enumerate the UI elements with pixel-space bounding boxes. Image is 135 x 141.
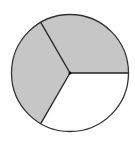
fraction-circle-diagram <box>0 0 135 141</box>
fraction-circle-svg <box>0 0 135 141</box>
center-point <box>68 71 71 74</box>
